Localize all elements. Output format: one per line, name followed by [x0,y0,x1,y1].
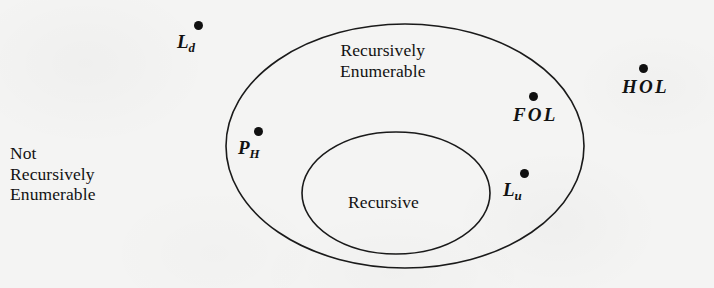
not-recursively-enumerable-label-line2: Recursively [10,164,96,185]
point-label-Lu: Lu [503,179,522,203]
point-label-base-PH: P [238,137,250,158]
point-label-subscript-Lu: u [515,188,522,203]
point-label-base-FOL: FOL [513,104,558,125]
point-dot-Ld [194,21,203,30]
not-recursively-enumerable-label-line3: Enumerable [10,184,96,205]
point-label-HOL: HOL [622,76,669,98]
point-label-base-Ld: L [177,31,189,52]
recursively-enumerable-label: Recursively Enumerable [340,40,426,81]
point-label-base-HOL: HOL [622,76,669,97]
recursively-enumerable-label-line2: Enumerable [340,61,426,82]
point-label-FOL: FOL [513,104,558,126]
point-dot-FOL [529,92,538,101]
point-label-base-Lu: L [503,179,515,200]
point-label-Ld: Ld [177,31,195,55]
point-dot-PH [254,127,263,136]
not-recursively-enumerable-label: Not Recursively Enumerable [10,143,96,205]
venn-diagram-figure: Recursively Enumerable Recursive Not Rec… [0,0,714,288]
point-label-subscript-Ld: d [189,40,196,55]
recursive-label: Recursive [348,192,419,213]
point-label-PH: PH [238,137,260,161]
point-dot-HOL [639,64,648,73]
recursively-enumerable-label-line1: Recursively [340,40,426,61]
point-dot-Lu [520,169,529,178]
point-label-subscript-PH: H [250,146,260,161]
not-recursively-enumerable-label-line1: Not [10,143,96,164]
